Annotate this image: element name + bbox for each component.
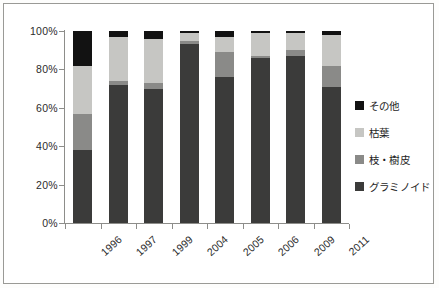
legend-item-label: グラミノイド <box>369 179 430 194</box>
bar-segment <box>144 31 163 39</box>
legend-swatch-icon <box>355 101 364 110</box>
bar-column <box>286 31 305 223</box>
legend-item-label: 枝・樹皮 <box>369 152 410 167</box>
bar-segment <box>144 89 163 223</box>
bar-segment <box>322 66 341 87</box>
bar-segment <box>180 44 199 223</box>
bar-segment <box>73 66 92 114</box>
bar-segment <box>109 81 128 85</box>
x-axis-tickmark <box>101 224 102 229</box>
bar-segment <box>322 35 341 66</box>
bar-column <box>109 31 128 223</box>
bar-segment <box>144 83 163 89</box>
bar-segment <box>251 33 270 56</box>
bar-segment <box>215 31 234 37</box>
x-axis-tickmark <box>65 224 66 229</box>
bar-column <box>144 31 163 223</box>
bar-segment <box>215 77 234 223</box>
bar-column <box>251 31 270 223</box>
bar-column <box>322 31 341 223</box>
bar-segment <box>286 33 305 50</box>
bar-segment <box>286 31 305 33</box>
bar-segment <box>251 56 270 58</box>
bar-segment <box>109 37 128 81</box>
bar-segment <box>180 31 199 33</box>
bar-segment <box>215 52 234 77</box>
legend-item-label: 枯葉 <box>369 125 389 140</box>
bar-segment <box>322 87 341 223</box>
plot-area <box>65 31 349 223</box>
y-axis-labels: 0%20%40%60%80%100% <box>6 31 58 223</box>
bar-segment <box>251 58 270 223</box>
chart-legend: その他枯葉枝・樹皮グラミノイド <box>355 92 435 200</box>
legend-item: 枯葉 <box>355 119 435 146</box>
y-axis-tick-label: 40% <box>36 140 58 152</box>
legend-swatch-icon <box>355 128 364 137</box>
bar-segment <box>144 39 163 83</box>
bar-segment <box>109 31 128 37</box>
bar-segment <box>215 37 234 52</box>
bar-column <box>73 31 92 223</box>
bar-segment <box>73 31 92 66</box>
bar-segment <box>73 114 92 150</box>
bar-segment <box>109 85 128 223</box>
bar-column <box>215 31 234 223</box>
y-axis-tick-label: 0% <box>42 217 58 229</box>
legend-item: グラミノイド <box>355 173 435 200</box>
legend-item: 枝・樹皮 <box>355 146 435 173</box>
legend-item-label: その他 <box>369 98 400 113</box>
bar-segment <box>286 50 305 56</box>
y-axis-tick-label: 20% <box>36 179 58 191</box>
x-axis-tickmark <box>349 224 350 229</box>
bar-segment <box>180 33 199 41</box>
x-axis-tickmark <box>278 224 279 229</box>
x-axis-tickmark <box>207 224 208 229</box>
bar-segment <box>180 41 199 45</box>
legend-swatch-icon <box>355 182 364 191</box>
bar-segment <box>286 56 305 223</box>
y-axis-tick-label: 100% <box>30 25 58 37</box>
bar-segment <box>322 31 341 35</box>
bar-segment <box>251 31 270 33</box>
chart-screenshot: 0%20%40%60%80%100% 199619971999200420052… <box>0 0 439 288</box>
x-axis-tickmark <box>314 224 315 229</box>
x-axis-tickmark <box>136 224 137 229</box>
bar-column <box>180 31 199 223</box>
y-axis-tick-label: 80% <box>36 63 58 75</box>
x-axis-tickmark <box>243 224 244 229</box>
y-axis-tick-label: 60% <box>36 102 58 114</box>
bar-segment <box>73 150 92 223</box>
x-axis-tickmark <box>172 224 173 229</box>
legend-item: その他 <box>355 92 435 119</box>
legend-swatch-icon <box>355 155 364 164</box>
